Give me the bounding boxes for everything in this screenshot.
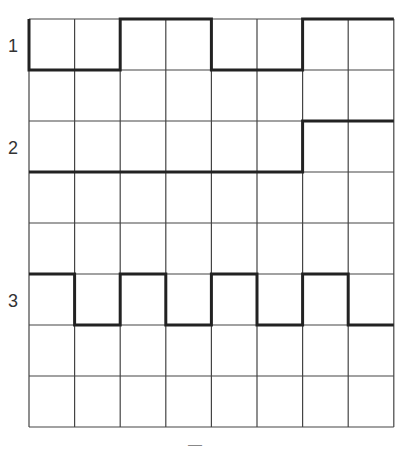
signal-waveform-3 — [29, 274, 394, 325]
signal-label-2: 2 — [8, 138, 18, 159]
grid — [29, 19, 394, 427]
signal-label-1: 1 — [8, 36, 18, 57]
signal-waveform-1 — [29, 19, 394, 70]
timing-diagram — [0, 0, 410, 449]
signal-label-3: 3 — [8, 291, 18, 312]
footer-mark: — — [188, 436, 202, 449]
